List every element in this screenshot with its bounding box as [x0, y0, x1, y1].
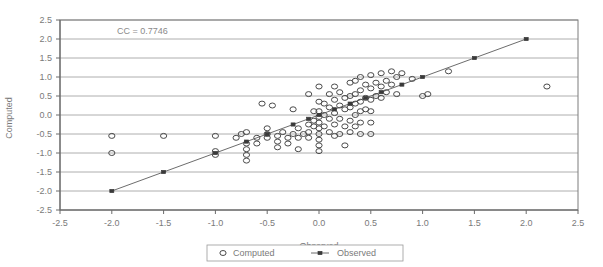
x-tick-label: -2.0	[104, 218, 120, 228]
data-point-computed	[306, 135, 312, 140]
data-point-computed	[331, 122, 337, 127]
data-point-computed	[342, 124, 348, 129]
data-point-computed	[254, 141, 260, 146]
data-point-computed	[295, 147, 301, 152]
data-point-computed	[347, 118, 353, 123]
data-point-observed	[162, 170, 166, 173]
data-point-observed	[317, 113, 321, 116]
data-point-computed	[342, 143, 348, 148]
data-point-computed	[259, 101, 265, 106]
data-point-observed	[364, 96, 368, 99]
legend-label-observed: Observed	[337, 248, 376, 258]
y-tick-labels: 2.52.01.51.00.50.0-0.5-1.0-1.5-2.0-2.5	[36, 15, 52, 215]
data-point-computed	[357, 120, 363, 125]
data-point-computed	[274, 139, 280, 144]
scatter-chart: 2.52.01.51.00.50.0-0.5-1.0-1.5-2.0-2.5 -…	[0, 0, 603, 267]
y-tick-label: -0.5	[36, 129, 52, 139]
data-point-computed	[316, 143, 322, 148]
y-tick-label: -2.0	[36, 186, 52, 196]
data-point-computed	[378, 71, 384, 76]
data-point-computed	[368, 120, 374, 125]
data-point-computed	[363, 82, 369, 87]
x-tick-label: 2.0	[520, 218, 533, 228]
y-tick-label: 0.5	[39, 91, 52, 101]
y-tick-label: 0.0	[39, 110, 52, 120]
data-point-observed	[400, 83, 404, 86]
data-point-computed	[337, 90, 343, 95]
data-point-computed	[352, 124, 358, 129]
data-point-observed	[213, 151, 217, 154]
data-point-observed	[110, 189, 114, 192]
data-point-observed	[333, 108, 337, 111]
data-point-computed	[285, 135, 291, 140]
series-computed-points	[109, 69, 550, 163]
y-tick-label: -1.5	[36, 167, 52, 177]
data-point-computed	[368, 86, 374, 91]
data-point-computed	[388, 82, 394, 87]
data-point-observed	[348, 102, 352, 105]
chart-legend: ComputedObserved	[207, 245, 403, 261]
legend-label-computed: Computed	[233, 248, 275, 258]
data-point-observed	[421, 75, 425, 78]
data-point-computed	[295, 135, 301, 140]
correlation-annotation: CC = 0.7746	[117, 26, 168, 36]
x-tick-label: 2.5	[572, 218, 585, 228]
x-tick-label: -1.0	[208, 218, 224, 228]
data-point-observed	[379, 91, 383, 94]
data-point-computed	[445, 69, 451, 74]
x-tick-label: -0.5	[259, 218, 275, 228]
data-point-computed	[274, 145, 280, 150]
x-tick-label: -1.5	[156, 218, 172, 228]
y-axis-title: Computed	[4, 97, 14, 139]
data-point-computed	[243, 158, 249, 163]
data-point-computed	[290, 107, 296, 112]
y-tick-label: 2.0	[39, 34, 52, 44]
x-tick-labels: -2.5-2.0-1.5-1.0-0.50.00.51.01.52.02.5	[52, 218, 584, 228]
y-tick-label: 1.5	[39, 53, 52, 63]
x-tick-label: 0.5	[365, 218, 378, 228]
data-point-observed	[307, 117, 311, 120]
data-point-computed	[243, 147, 249, 152]
data-point-observed	[524, 37, 528, 40]
data-point-computed	[373, 80, 379, 85]
legend-marker-observed	[318, 251, 322, 254]
data-point-computed	[316, 137, 322, 142]
y-tick-label: 2.5	[39, 15, 52, 25]
data-point-observed	[265, 132, 269, 135]
data-point-computed	[383, 78, 389, 83]
x-tick-label: -2.5	[52, 218, 68, 228]
y-tick-label: -2.5	[36, 205, 52, 215]
data-point-computed	[269, 103, 275, 108]
data-point-observed	[291, 123, 295, 126]
data-point-computed	[331, 84, 337, 89]
data-point-observed	[244, 140, 248, 143]
data-point-computed	[326, 105, 332, 110]
y-tick-label: 1.0	[39, 72, 52, 82]
data-point-computed	[544, 84, 550, 89]
data-point-computed	[399, 71, 405, 76]
data-point-computed	[233, 135, 239, 140]
data-point-observed	[472, 56, 476, 59]
data-point-computed	[388, 69, 394, 74]
data-point-computed	[326, 116, 332, 121]
x-tick-label: 1.5	[468, 218, 481, 228]
plot-canvas: 2.52.01.51.00.50.0-0.5-1.0-1.5-2.0-2.5 -…	[0, 0, 603, 267]
data-point-computed	[378, 84, 384, 89]
x-tick-label: 0.0	[313, 218, 326, 228]
x-tick-label: 1.0	[416, 218, 429, 228]
data-point-computed	[331, 97, 337, 102]
data-point-computed	[316, 84, 322, 89]
data-point-computed	[295, 126, 301, 131]
data-point-computed	[264, 126, 270, 131]
data-point-computed	[357, 88, 363, 93]
data-point-computed	[337, 116, 343, 121]
y-tick-label: -1.0	[36, 148, 52, 158]
data-point-computed	[285, 141, 291, 146]
